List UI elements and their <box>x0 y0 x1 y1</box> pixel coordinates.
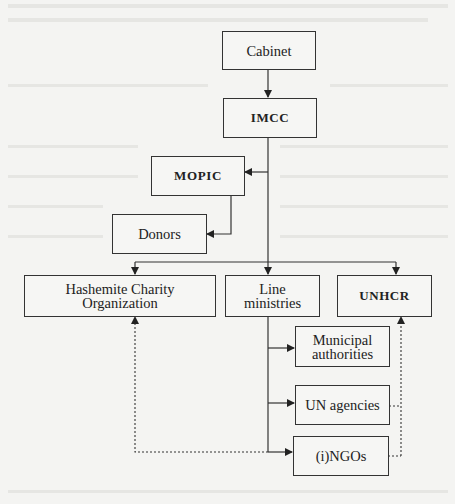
node-line-ministries-label-line2: ministries <box>244 296 301 310</box>
node-imcc: IMCC <box>223 98 317 138</box>
node-mopic-label: MOPIC <box>174 169 222 183</box>
node-unhcr-label: UNHCR <box>359 289 410 303</box>
node-hco-label-line1: Hashemite Charity <box>65 282 174 296</box>
node-hashemite-charity-organization: Hashemite Charity Organization <box>24 275 216 317</box>
node-line-ministries: Line ministries <box>225 275 320 317</box>
node-ingos-label: (i)NGOs <box>316 449 367 463</box>
node-hco-label-line2: Organization <box>82 296 157 310</box>
node-donors-label: Donors <box>138 227 181 241</box>
node-donors: Donors <box>112 214 207 254</box>
node-ingos: (i)NGOs <box>293 436 389 476</box>
node-un-agencies-label: UN agencies <box>305 398 379 412</box>
node-cabinet: Cabinet <box>222 31 316 70</box>
node-municipal-label-line1: Municipal <box>313 333 373 347</box>
node-line-ministries-label-line1: Line <box>259 282 286 296</box>
node-cabinet-label: Cabinet <box>246 44 291 58</box>
connector-lines <box>0 0 455 504</box>
node-municipal-label-line2: authorities <box>312 347 373 361</box>
node-unhcr: UNHCR <box>337 275 432 317</box>
node-municipal-authorities: Municipal authorities <box>295 326 390 367</box>
node-un-agencies: UN agencies <box>295 385 390 425</box>
node-imcc-label: IMCC <box>251 111 290 125</box>
node-mopic: MOPIC <box>151 156 245 196</box>
